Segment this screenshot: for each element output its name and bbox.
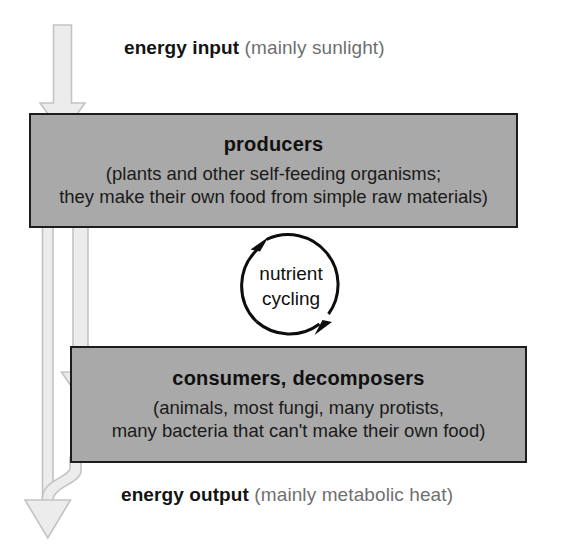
nutrient-cycling-group: nutrient cycling: [236, 231, 346, 341]
consumers-description: (animals, most fungi, many protists, man…: [112, 396, 486, 443]
energy-output-strong-text: energy output: [121, 484, 249, 505]
energy-output-label: energy output (mainly metabolic heat): [121, 484, 453, 506]
consumers-decomposers-box: consumers, decomposers (animals, most fu…: [70, 346, 527, 463]
producers-title: producers: [224, 133, 324, 156]
consumers-title: consumers, decomposers: [172, 367, 424, 390]
nutrient-cycling-circle-arrow: [236, 231, 346, 341]
producers-box: producers (plants and other self-feeding…: [29, 113, 518, 228]
nutrient-cycling-arrowhead-bottom: [315, 320, 333, 335]
nutrient-cycling-arc-right: [267, 235, 339, 314]
nutrient-cycling-arc-bottom: [257, 322, 320, 334]
energy-output-shaft: [43, 222, 54, 505]
nutrient-cycling-arc-left: [242, 249, 259, 322]
energy-input-strong-text: energy input: [124, 37, 239, 58]
energy-output-arrowhead: [25, 500, 71, 538]
ecosystem-energy-flow-diagram: energy input (mainly sunlight) producers…: [0, 0, 584, 549]
energy-input-soft-text: (mainly sunlight): [245, 37, 385, 58]
producers-description: (plants and other self-feeding organisms…: [59, 162, 488, 209]
energy-input-label: energy input (mainly sunlight): [124, 37, 385, 59]
energy-output-soft-text: (mainly metabolic heat): [254, 484, 453, 505]
nutrient-cycling-arrowhead-top: [251, 237, 269, 252]
